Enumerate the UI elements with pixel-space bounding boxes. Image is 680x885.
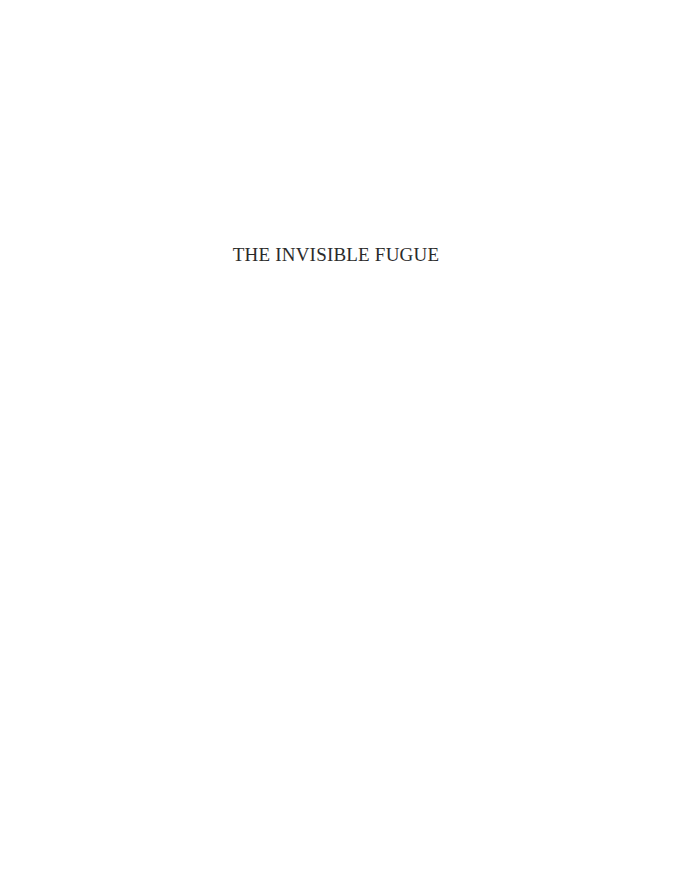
book-title: THE INVISIBLE FUGUE [0,243,672,267]
half-title-page: THE INVISIBLE FUGUE [0,0,680,885]
